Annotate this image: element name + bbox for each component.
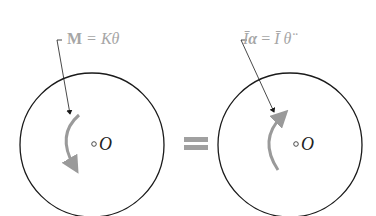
right-body <box>218 40 362 216</box>
left-moment-label: M = Kθ <box>67 30 120 47</box>
left-moment-arrow-icon <box>66 115 79 166</box>
left-center-label: O <box>99 134 112 154</box>
left-center-point <box>92 142 97 147</box>
diagram-canvas: M = Kθ O Īα = Ī θ̈ O <box>0 0 376 216</box>
right-moment-label: Īα = Ī θ̈ <box>242 30 297 47</box>
right-center-label: O <box>301 134 314 154</box>
left-body <box>20 40 164 216</box>
right-circle <box>218 73 362 216</box>
equals-sign <box>184 137 208 150</box>
right-center-point <box>294 142 299 147</box>
right-moment-arrow-icon <box>269 116 282 170</box>
